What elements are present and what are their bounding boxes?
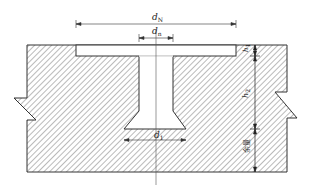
dimension-h1-label: h1 [242,44,251,52]
dimension-margin-label: 余量 [242,139,251,153]
cross-section-diagram: dN dn d1 h1 h2 余量 [0,0,310,192]
dimension-dN-label: dN [152,12,163,23]
dimension-dn-label: dn [152,26,162,37]
